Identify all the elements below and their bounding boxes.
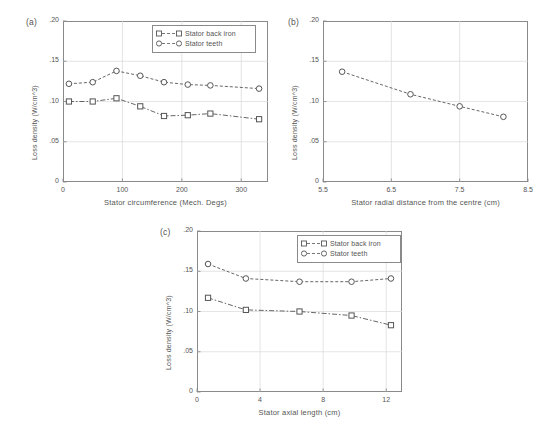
circle-marker [137,73,143,79]
circle-marker [90,79,96,85]
x-tick-label: 8.5 [514,186,542,193]
square-marker [256,117,261,122]
y-tick-label: .20 [41,16,59,23]
square-marker [205,295,210,300]
circle-marker [156,39,182,48]
panel-c-legend: Stator back iron Stator teeth [297,235,401,263]
y-tick-label: 0 [175,387,193,394]
panel-a: (a) Loss density (W/cm^3) Stator back ir… [0,0,285,212]
y-tick-label: .10 [175,307,193,314]
y-tick-label: .20 [175,226,193,233]
x-tick-label: 4 [246,396,274,403]
y-tick-label: .10 [41,97,59,104]
circle-marker [501,114,507,120]
y-tick-label: .15 [301,56,319,63]
legend-row-teeth: Stator teeth [156,38,251,48]
square-marker [297,309,302,314]
legend-row-back-iron: Stator back iron [156,28,251,38]
legend-label-teeth: Stator teeth [330,250,367,257]
circle-marker [349,279,355,285]
y-tick-label: .05 [41,137,59,144]
y-tick-label: 0 [301,177,319,184]
x-tick-label: 300 [227,186,255,193]
legend-row-back-iron: Stator back iron [301,238,396,248]
circle-marker [185,82,191,88]
panel-b-plot-area [278,0,554,212]
circle-marker [457,104,463,110]
square-marker [388,323,393,328]
square-marker [66,99,71,104]
x-tick-label: 0 [49,186,77,193]
panel-b: (b) Loss density (W/cm^3) Stator radial … [278,0,554,212]
circle-marker [208,83,214,89]
legend-label-teeth: Stator teeth [185,40,222,47]
panel-a-legend: Stator back iron Stator teeth [152,25,256,53]
legend-label-back-iron: Stator back iron [330,240,381,247]
x-tick-label: 5.5 [309,186,337,193]
circle-marker [297,279,303,285]
square-marker [185,113,190,118]
square-marker [138,104,143,109]
square-marker [208,111,213,116]
series-line [342,72,503,117]
y-tick-label: .05 [301,137,319,144]
x-tick-label: 7.5 [446,186,474,193]
square-marker [161,113,166,118]
circle-marker [66,81,72,87]
y-tick-label: .20 [301,16,319,23]
y-tick-label: 0 [41,177,59,184]
square-marker [301,239,327,248]
square-marker [90,99,95,104]
square-marker [156,29,182,38]
x-tick-label: 0 [183,396,211,403]
x-tick-label: 12 [372,396,400,403]
circle-marker [256,86,262,92]
circle-marker [388,276,394,282]
x-tick-label: 100 [108,186,136,193]
x-tick-label: 6.5 [377,186,405,193]
circle-marker [114,68,120,74]
x-tick-label: 200 [168,186,196,193]
square-marker [243,307,248,312]
panel-b-xlabel: Stator radial distance from the centre (… [323,198,528,207]
square-marker [114,96,119,101]
circle-marker [301,249,327,258]
circle-marker [339,69,345,75]
circle-marker [408,91,414,97]
circle-marker [161,79,167,85]
y-tick-label: .05 [175,347,193,354]
y-tick-label: .10 [301,97,319,104]
panel-c: (c) Loss density (W/cm^3) Stator back ir… [120,210,430,422]
legend-row-teeth: Stator teeth [301,248,396,258]
square-marker [349,313,354,318]
circle-marker [205,261,211,267]
panel-a-xlabel: Stator circumference (Mech. Degs) [63,198,268,207]
y-tick-label: .15 [175,266,193,273]
circle-marker [243,276,249,282]
y-tick-label: .15 [41,56,59,63]
x-tick-label: 8 [309,396,337,403]
legend-label-back-iron: Stator back iron [185,30,236,37]
panel-c-xlabel: Stator axial length (cm) [197,408,402,417]
